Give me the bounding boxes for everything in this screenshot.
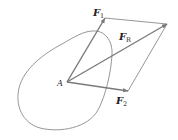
vector-fr [67, 24, 167, 82]
fr-label: FR [118, 31, 132, 44]
vector-f1 [67, 18, 105, 82]
construction-line-right [128, 24, 167, 91]
construction-line-top [105, 18, 167, 24]
force-parallelogram-diagram: A F1 FR F2 [0, 0, 178, 140]
rigid-body-outline [18, 31, 112, 130]
f2-subscript: 2 [123, 100, 127, 108]
fr-subscript: R [126, 36, 132, 44]
point-a-label: A [56, 78, 63, 88]
f1-label: F1 [92, 7, 104, 20]
f2-label: F2 [115, 95, 127, 108]
vector-f2 [67, 82, 128, 91]
f1-subscript: 1 [100, 12, 104, 20]
